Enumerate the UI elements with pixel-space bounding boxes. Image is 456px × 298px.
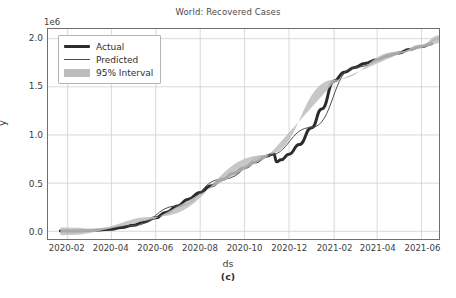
legend-item-predicted: Predicted — [64, 53, 153, 66]
chart-title: World: Recovered Cases — [0, 7, 456, 17]
chart-figure: World: Recovered Cases 1e6 y 0.00.51.01.… — [0, 0, 456, 298]
legend-item-actual: Actual — [64, 40, 153, 53]
chart-legend: Actual Predicted 95% Interval — [58, 35, 161, 84]
x-tick-label: 2020-10 — [227, 243, 263, 253]
x-tick-label: 2020-02 — [49, 243, 85, 253]
figure-caption: (c) — [0, 271, 456, 282]
x-tick-label: 2020-08 — [182, 243, 218, 253]
y-axis-ticks: 0.00.51.01.52.0 — [0, 28, 43, 240]
legend-label-actual: Actual — [96, 42, 124, 52]
y-tick-label: 2.0 — [5, 33, 43, 43]
legend-label-interval: 95% Interval — [96, 68, 153, 78]
x-tick-label: 2020-12 — [271, 243, 307, 253]
plot-area: Actual Predicted 95% Interval — [47, 28, 440, 240]
y-tick-label: 0.5 — [5, 179, 43, 189]
legend-swatch-predicted-line-icon — [64, 54, 90, 66]
legend-item-interval: 95% Interval — [64, 66, 153, 79]
y-tick-label: 1.0 — [5, 130, 43, 140]
x-tick-label: 2020-04 — [93, 243, 129, 253]
x-tick-label: 2020-06 — [137, 243, 173, 253]
x-axis-ticks: 2020-022020-042020-062020-082020-102020-… — [47, 243, 440, 259]
y-tick-label: 0.0 — [5, 227, 43, 237]
y-axis-offset-label: 1e6 — [44, 17, 60, 27]
x-axis-label: ds — [0, 258, 456, 269]
x-tick-label: 2021-06 — [404, 243, 440, 253]
legend-label-predicted: Predicted — [96, 55, 138, 65]
legend-swatch-actual-line-icon — [64, 41, 90, 53]
y-tick-label: 1.5 — [5, 81, 43, 91]
x-tick-label: 2021-04 — [360, 243, 396, 253]
legend-swatch-interval-band-icon — [64, 67, 90, 79]
x-tick-label: 2021-02 — [317, 243, 353, 253]
